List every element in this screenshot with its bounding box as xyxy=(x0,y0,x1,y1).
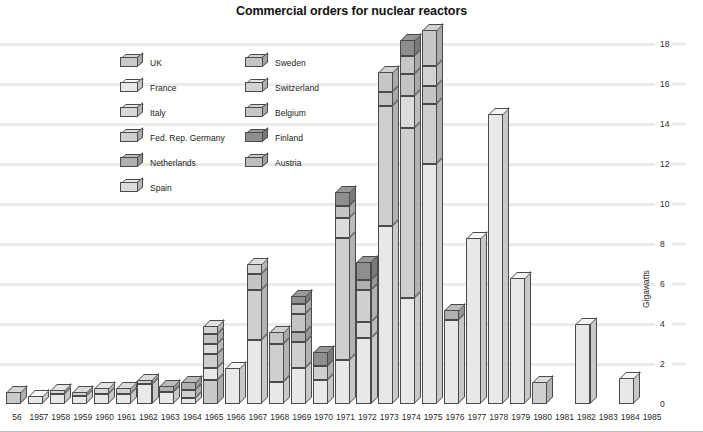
bar-segment-fed-rep-germany xyxy=(532,382,547,404)
gridline xyxy=(0,243,655,246)
gridline-tail xyxy=(672,283,686,286)
bar-1974[interactable] xyxy=(400,40,415,404)
bar-1960[interactable] xyxy=(94,388,109,404)
bar-1982[interactable] xyxy=(575,324,590,404)
bar-1967[interactable] xyxy=(247,264,262,404)
bar-1979[interactable] xyxy=(510,278,525,404)
bar-1957[interactable] xyxy=(28,396,43,404)
bar-top-face xyxy=(619,372,634,379)
x-axis-tick: 56 xyxy=(12,412,21,422)
segment-side xyxy=(392,219,399,404)
bar-1978[interactable] xyxy=(488,114,503,404)
y-axis-tick: 12 xyxy=(660,159,669,169)
segment-side xyxy=(480,231,487,404)
legend-swatch-icon xyxy=(245,129,269,142)
bar-segment-switzerland xyxy=(422,66,437,86)
legend-label: Fed. Rep. Germany xyxy=(150,133,225,143)
segment-side xyxy=(502,107,509,404)
bar-segment-fed-rep-germany xyxy=(313,366,328,380)
segment-front xyxy=(422,104,437,164)
gridline-tail xyxy=(672,243,686,246)
segment-side xyxy=(349,353,356,404)
gridline-tail xyxy=(672,43,686,46)
chart-root: Commercial orders for nuclear reactors 0… xyxy=(0,0,703,432)
bar-1976[interactable] xyxy=(444,310,459,404)
bar-1970[interactable] xyxy=(313,352,328,404)
bar-1971[interactable] xyxy=(335,192,350,404)
y-axis-tick: 14 xyxy=(660,119,669,129)
bar-1963[interactable] xyxy=(159,386,174,404)
x-axis-tick: 1968 xyxy=(270,412,289,422)
x-axis-tick: 1973 xyxy=(380,412,399,422)
swatch-front xyxy=(120,57,138,67)
segment-side xyxy=(261,333,268,404)
x-axis-tick: 1967 xyxy=(248,412,267,422)
bar-segment-france xyxy=(269,382,284,404)
x-axis: 5619571958195919601961196219631964196519… xyxy=(0,406,703,428)
x-axis-tick: 1961 xyxy=(117,412,136,422)
bar-segment-sweden xyxy=(422,86,437,104)
gridlines xyxy=(0,0,655,404)
bar-segment-switzerland xyxy=(203,326,218,334)
segment-front xyxy=(203,326,218,334)
bar-1977[interactable] xyxy=(466,238,481,404)
y-axis-tick: 18 xyxy=(660,39,669,49)
legend-label: Italy xyxy=(150,108,166,118)
segment-front xyxy=(291,296,306,304)
bar-segment-france xyxy=(575,324,590,404)
bar-1961[interactable] xyxy=(116,388,131,404)
bar-segment-finland xyxy=(400,40,415,56)
segment-front xyxy=(335,206,350,218)
segment-side xyxy=(524,271,531,404)
bar-segment-france xyxy=(488,114,503,404)
segment-side xyxy=(305,361,312,404)
bar-segment-belgium xyxy=(378,72,393,92)
segment-front xyxy=(422,66,437,86)
bar-1980[interactable] xyxy=(532,382,547,404)
bar-1969[interactable] xyxy=(291,296,306,404)
segment-side xyxy=(436,157,443,404)
bar-1959[interactable] xyxy=(72,392,87,404)
bar-1958[interactable] xyxy=(50,390,65,404)
bar-segment-spain xyxy=(400,96,415,128)
legend-label: Austria xyxy=(275,158,301,168)
bar-top-face xyxy=(510,272,525,279)
segment-front xyxy=(400,96,415,128)
bar-1968[interactable] xyxy=(269,332,284,404)
bar-segment-france xyxy=(619,378,634,404)
gridline-tail xyxy=(672,203,686,206)
bar-top-face xyxy=(269,326,284,333)
bar-top-face xyxy=(313,346,328,353)
bar-top-face xyxy=(532,376,547,383)
x-axis-tick: 1985 xyxy=(643,412,662,422)
bar-segment-france xyxy=(72,396,87,404)
bar-segment-fed-rep-germany xyxy=(378,106,393,226)
bar-1962[interactable] xyxy=(137,380,152,404)
segment-front xyxy=(203,334,218,344)
legend-swatch-icon xyxy=(120,54,144,67)
bar-top-face xyxy=(422,24,437,31)
bar-segment-netherlands xyxy=(444,310,459,320)
bar-1973[interactable] xyxy=(378,72,393,404)
segment-front xyxy=(28,396,43,404)
bar-segment-spain xyxy=(335,218,350,238)
legend-swatch-icon xyxy=(120,154,144,167)
legend-swatch-icon xyxy=(245,154,269,167)
bar-1984[interactable] xyxy=(619,378,634,404)
bar-1965[interactable] xyxy=(203,326,218,404)
bar-1972[interactable] xyxy=(356,262,371,404)
gridline-tail xyxy=(672,83,686,86)
segment-front xyxy=(137,384,152,404)
bar-1964[interactable] xyxy=(181,382,196,404)
segment-front xyxy=(575,324,590,404)
bar-1966[interactable] xyxy=(225,368,240,404)
segment-front xyxy=(247,264,262,274)
swatch-front xyxy=(120,132,138,142)
segment-front xyxy=(422,164,437,404)
bar-segment-uk xyxy=(203,380,218,404)
legend-label: UK xyxy=(150,58,162,68)
y-axis-tick: 6 xyxy=(660,279,665,289)
bar-1956[interactable] xyxy=(6,392,21,404)
bar-1975[interactable] xyxy=(422,30,437,404)
bar-segment-finland xyxy=(291,296,306,304)
